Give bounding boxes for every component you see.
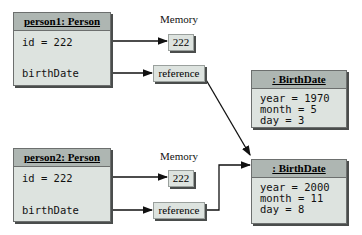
birthdate2-header: : BirthDate bbox=[252, 160, 346, 178]
person2-birthdate: birthDate bbox=[22, 204, 79, 216]
memory-value-2: 222 bbox=[168, 170, 194, 187]
memory-value-1: 222 bbox=[168, 34, 194, 51]
person2-object: person2: Person id = 222 birthDate bbox=[13, 148, 111, 222]
birthdate1-header: : BirthDate bbox=[252, 71, 346, 89]
birthdate1-fields: year = 1970 month = 5 day = 3 bbox=[260, 93, 330, 126]
person1-object: person1: Person id = 222 birthDate bbox=[13, 12, 111, 86]
person2-id: id = 222 bbox=[22, 172, 73, 184]
birthdate1-object: : BirthDate year = 1970 month = 5 day = … bbox=[251, 70, 347, 128]
birthdate2-fields: year = 2000 month = 11 day = 8 bbox=[260, 182, 330, 215]
reference-2: reference bbox=[153, 202, 205, 219]
person1-header: person1: Person bbox=[14, 13, 110, 31]
birthdate2-object: : BirthDate year = 2000 month = 11 day =… bbox=[251, 159, 347, 224]
memory-label-2: Memory bbox=[160, 150, 198, 162]
person1-birthdate: birthDate bbox=[22, 67, 79, 79]
person2-header: person2: Person bbox=[14, 149, 110, 167]
person1-id: id = 222 bbox=[22, 36, 73, 48]
memory-label-1: Memory bbox=[160, 13, 198, 25]
reference-1: reference bbox=[153, 65, 205, 82]
